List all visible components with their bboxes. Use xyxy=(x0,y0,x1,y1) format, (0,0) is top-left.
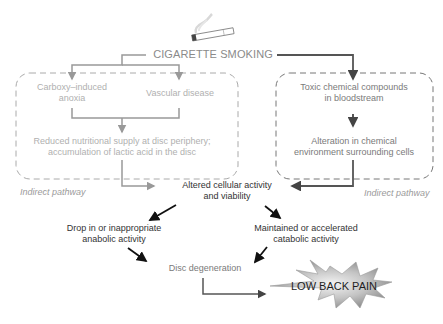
node-line: anoxia xyxy=(32,93,112,104)
node-line: anabolic activity xyxy=(60,234,168,245)
node-line: Toxic chemical compounds xyxy=(292,82,416,93)
node-carboxy-induced-anoxia: Carboxy–induced anoxia xyxy=(32,82,112,104)
node-line: and viability xyxy=(170,191,284,202)
node-catabolic-activity: Maintained or accelerated catabolic acti… xyxy=(250,223,362,245)
node-line: Reduced nutritional supply at disc perip… xyxy=(22,136,222,147)
node-line: Alteration in chemical xyxy=(290,136,418,147)
node-line: catabolic activity xyxy=(250,234,362,245)
node-low-back-pain: LOW BACK PAIN xyxy=(286,281,382,292)
node-line: Drop in or inappropriate xyxy=(60,223,168,234)
right-pathway-label: Indirect pathway xyxy=(364,188,436,199)
cigarette-icon xyxy=(192,14,234,41)
node-disc-degeneration: Disc degeneration xyxy=(160,263,250,274)
node-line: accumulation of lactic acid in the disc xyxy=(22,147,222,158)
node-line: Maintained or accelerated xyxy=(250,223,362,234)
title-cigarette-smoking: CIGARETTE SMOKING xyxy=(150,49,276,60)
node-anabolic-activity: Drop in or inappropriate anabolic activi… xyxy=(60,223,168,245)
node-line: environment surrounding cells xyxy=(290,147,418,158)
node-vascular-disease: Vascular disease xyxy=(140,88,220,99)
left-pathway-label: Indirect pathway xyxy=(20,187,90,198)
node-line: Altered cellular activity xyxy=(170,180,284,191)
node-alteration-chemical-environment: Alteration in chemical environment surro… xyxy=(290,136,418,158)
node-reduced-nutritional-supply: Reduced nutritional supply at disc perip… xyxy=(22,136,222,158)
node-line: Carboxy–induced xyxy=(32,82,112,93)
node-toxic-chemical-compounds: Toxic chemical compounds in bloodstream xyxy=(292,82,416,104)
node-line: in bloodstream xyxy=(292,93,416,104)
node-altered-cellular-activity: Altered cellular activity and viability xyxy=(170,180,284,202)
